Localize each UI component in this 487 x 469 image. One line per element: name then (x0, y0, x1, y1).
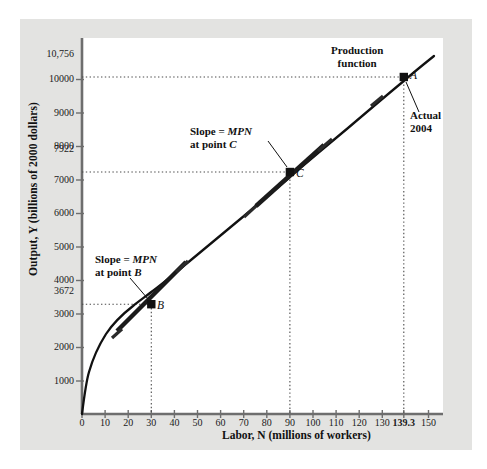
figure-root: Output, Y (billions of 2000 dollars) Lab… (0, 0, 487, 469)
point-b-label: B (157, 299, 164, 311)
production-function-line1: Production (331, 44, 383, 57)
production-function-annotation: Production function (331, 44, 383, 70)
actual-line2: 2004 (410, 122, 441, 135)
point-a-label: A (410, 69, 417, 81)
leader-slope-b (130, 278, 148, 299)
slope-c-prefix: Slope = (190, 125, 227, 137)
production-function-line2: function (331, 57, 383, 70)
data-point-a-marker (400, 73, 408, 81)
point-c-label: C (296, 167, 304, 179)
actual-line1: Actual (410, 109, 441, 122)
slope-c-atpoint: at point (190, 138, 229, 150)
data-point-c-marker (286, 168, 294, 176)
slope-c-mpn: MPN (227, 125, 251, 137)
slope-b-annotation: Slope = MPN at point B (95, 253, 157, 279)
slope-b-mpn: MPN (132, 253, 156, 265)
slope-b-prefix: Slope = (95, 253, 132, 265)
leader-slope-c (268, 141, 287, 167)
actual-2004-annotation: Actual 2004 (410, 109, 441, 135)
slope-c-point: C (229, 138, 236, 150)
production-function-curve (82, 56, 434, 414)
slope-c-annotation: Slope = MPN at point C (190, 125, 252, 151)
data-point-b-marker (147, 300, 155, 308)
slope-b-point: B (134, 266, 141, 278)
leader-actual-2004 (406, 82, 419, 112)
slope-b-atpoint: at point (95, 266, 134, 278)
